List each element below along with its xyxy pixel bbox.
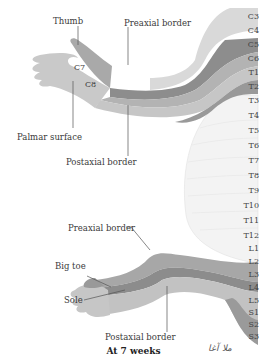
label-palmar-surface: Palmar surface <box>17 133 82 142</box>
segment-label: S1 <box>239 309 259 317</box>
segment-label: C6 <box>239 55 259 63</box>
label-preaxial-border-lower: Preaxial border <box>68 224 135 233</box>
segment-label: T11 <box>239 217 259 225</box>
segment-label: T3 <box>239 97 259 105</box>
label-preaxial-border-upper: Preaxial border <box>124 19 191 28</box>
segment-label: T7 <box>239 157 259 165</box>
segment-label: T4 <box>239 112 259 120</box>
segment-label: T5 <box>239 127 259 135</box>
segment-label: L2 <box>239 258 259 266</box>
segment-label: S2 <box>239 321 259 329</box>
label-postaxial-border-upper: Postaxial border <box>66 158 137 167</box>
label-c7: C7 <box>74 64 85 72</box>
segment-label: T10 <box>239 202 259 210</box>
segment-label: C3 <box>239 13 259 21</box>
segment-label: S3 <box>239 333 259 341</box>
segment-label: L1 <box>239 245 259 253</box>
label-big-toe: Big toe <box>55 262 86 271</box>
label-postaxial-border-lower: Postaxial border <box>105 333 176 342</box>
segment-label: L4 <box>239 284 259 292</box>
segment-label: L3 <box>239 271 259 279</box>
embryo-dermatome-diagram <box>0 0 267 363</box>
segment-label: T2 <box>239 83 259 91</box>
label-c8: C8 <box>85 81 96 89</box>
label-sole: Sole <box>64 296 83 305</box>
segment-label: T6 <box>239 142 259 150</box>
segment-label: C4 <box>239 27 259 35</box>
segment-label: T1 <box>239 69 259 77</box>
segment-label: T8 <box>239 172 259 180</box>
segment-label: T12 <box>239 232 259 240</box>
segment-label: L5 <box>239 297 259 305</box>
segment-label: T9 <box>239 187 259 195</box>
label-thumb: Thumb <box>53 17 83 26</box>
signature: ملا آغا <box>208 343 232 353</box>
segment-label: C5 <box>239 41 259 49</box>
